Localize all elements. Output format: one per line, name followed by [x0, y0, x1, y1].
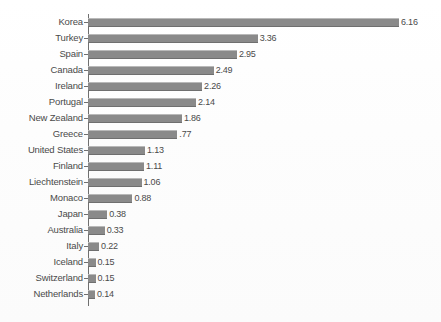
category-label: Korea: [0, 17, 88, 27]
value-label: 0.22: [101, 242, 118, 251]
axis-tick: [84, 166, 88, 167]
bar-track: 0.38: [88, 206, 441, 222]
bar-track: 2.49: [88, 62, 441, 78]
bar: [88, 258, 96, 267]
bar: [88, 130, 177, 139]
value-label: 0.15: [98, 258, 115, 267]
bar-track: 2.26: [88, 78, 441, 94]
value-label: 3.36: [260, 34, 277, 43]
category-label: Italy: [0, 241, 88, 251]
bar: [88, 66, 214, 75]
plot-area: Korea6.16Turkey3.36Spain2.95Canada2.49Ir…: [0, 14, 441, 314]
bar-track: 3.36: [88, 30, 441, 46]
bar: [88, 34, 258, 43]
bar-row: Ireland2.26: [0, 78, 441, 94]
bar-track: 0.33: [88, 222, 441, 238]
bar: [88, 194, 132, 203]
value-label: 1.11: [146, 162, 162, 171]
bar-track: .77: [88, 126, 441, 142]
axis-tick: [84, 214, 88, 215]
bar: [88, 290, 95, 299]
bar-track: 1.06: [88, 174, 441, 190]
bar: [88, 50, 237, 59]
axis-tick: [84, 198, 88, 199]
bar: [88, 146, 145, 155]
axis-tick: [84, 22, 88, 23]
bar-row: Iceland0.15: [0, 254, 441, 270]
value-label: 0.15: [98, 274, 115, 283]
axis-tick: [84, 230, 88, 231]
bar: [88, 210, 107, 219]
bar: [88, 226, 105, 235]
bar-row: Australia0.33: [0, 222, 441, 238]
bar: [88, 114, 182, 123]
axis-tick: [84, 118, 88, 119]
value-label: 2.26: [204, 82, 221, 91]
axis-tick: [84, 246, 88, 247]
bar-track: 2.95: [88, 46, 441, 62]
value-label: 2.49: [216, 66, 233, 75]
value-label: .77: [179, 130, 191, 139]
category-label: Spain: [0, 49, 88, 59]
axis-tick: [84, 86, 88, 87]
value-label: 2.14: [198, 98, 215, 107]
category-label: Greece: [0, 129, 88, 139]
axis-tick: [84, 294, 88, 295]
category-label: Switzerland: [0, 273, 88, 283]
bar-row: Italy0.22: [0, 238, 441, 254]
value-label: 2.95: [239, 50, 256, 59]
category-label: Monaco: [0, 193, 88, 203]
bar-track: 0.14: [88, 286, 441, 302]
category-label: Iceland: [0, 257, 88, 267]
value-label: 0.38: [109, 210, 126, 219]
bar-row: Liechtenstein1.06: [0, 174, 441, 190]
axis-tick: [84, 150, 88, 151]
bar-row: Japan0.38: [0, 206, 441, 222]
bar: [88, 82, 202, 91]
bar-track: 0.15: [88, 254, 441, 270]
value-label: 1.13: [147, 146, 164, 155]
bar-row: Spain2.95: [0, 46, 441, 62]
category-label: Ireland: [0, 81, 88, 91]
bar: [88, 18, 399, 27]
bar: [88, 162, 144, 171]
bar-row: Canada2.49: [0, 62, 441, 78]
axis-tick: [84, 102, 88, 103]
axis-tick: [84, 54, 88, 55]
bar-row: Netherlands0.14: [0, 286, 441, 302]
bar-track: 1.86: [88, 110, 441, 126]
bar-row: New Zealand1.86: [0, 110, 441, 126]
value-label: 0.14: [97, 290, 114, 299]
category-label: Portugal: [0, 97, 88, 107]
bar-track: 1.13: [88, 142, 441, 158]
bar-track: 1.11: [88, 158, 441, 174]
category-label: Liechtenstein: [0, 177, 88, 187]
bar: [88, 178, 142, 187]
bar-row: Finland1.11: [0, 158, 441, 174]
value-label: 1.86: [184, 114, 201, 123]
value-label: 0.33: [107, 226, 124, 235]
bar: [88, 98, 196, 107]
bar-row: Turkey3.36: [0, 30, 441, 46]
axis-tick: [84, 278, 88, 279]
bar-track: 0.88: [88, 190, 441, 206]
category-label: New Zealand: [0, 113, 88, 123]
bar-row: United States1.13: [0, 142, 441, 158]
bar-track: 6.16: [88, 14, 441, 30]
category-label: Turkey: [0, 33, 88, 43]
category-label: United States: [0, 145, 88, 155]
bar: [88, 274, 96, 283]
bar: [88, 242, 99, 251]
category-label: Finland: [0, 161, 88, 171]
axis-tick: [84, 262, 88, 263]
bar-track: 0.22: [88, 238, 441, 254]
axis-tick: [84, 182, 88, 183]
bar-track: 2.14: [88, 94, 441, 110]
category-label: Netherlands: [0, 289, 88, 299]
category-label: Canada: [0, 65, 88, 75]
bar-row: Korea6.16: [0, 14, 441, 30]
bar-row: Greece.77: [0, 126, 441, 142]
category-label: Australia: [0, 225, 88, 235]
axis-tick: [84, 134, 88, 135]
value-label: 1.06: [144, 178, 161, 187]
